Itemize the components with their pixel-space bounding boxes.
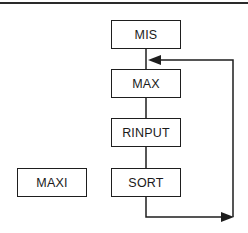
node-mis: MIS: [111, 20, 181, 49]
node-max: MAX: [111, 69, 181, 98]
node-maxi: MAXI: [17, 168, 87, 197]
arrowhead-right-icon: [221, 212, 234, 222]
node-label: MIS: [135, 28, 158, 42]
node-label: RINPUT: [122, 126, 170, 140]
node-label: MAX: [132, 77, 160, 91]
node-label: MAXI: [36, 176, 67, 190]
node-label: SORT: [128, 176, 163, 190]
node-sort: SORT: [111, 168, 181, 197]
node-rinput: RINPUT: [111, 118, 181, 147]
loop-bottom-line: [146, 197, 225, 217]
arrowhead-left-icon: [148, 55, 161, 65]
